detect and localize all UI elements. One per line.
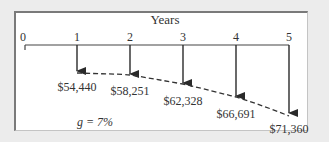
tick-label-3: 3 xyxy=(180,31,186,43)
cash-flow-label-4: $66,691 xyxy=(217,108,256,120)
tick-label-1: 1 xyxy=(74,31,80,43)
growth-rate-label: g = 7% xyxy=(77,116,113,128)
chart-title: Years xyxy=(150,13,179,26)
cash-flow-label-2: $58,251 xyxy=(111,85,150,97)
cash-flow-label-3: $62,328 xyxy=(164,95,203,107)
cash-flow-label-1: $54,440 xyxy=(58,81,97,93)
tick-label-2: 2 xyxy=(127,31,133,43)
tick-label-5: 5 xyxy=(286,31,292,43)
tick-label-4: 4 xyxy=(233,31,239,43)
cash-flow-label-5: $71,360 xyxy=(270,123,309,135)
tick-label-0: 0 xyxy=(20,31,26,43)
